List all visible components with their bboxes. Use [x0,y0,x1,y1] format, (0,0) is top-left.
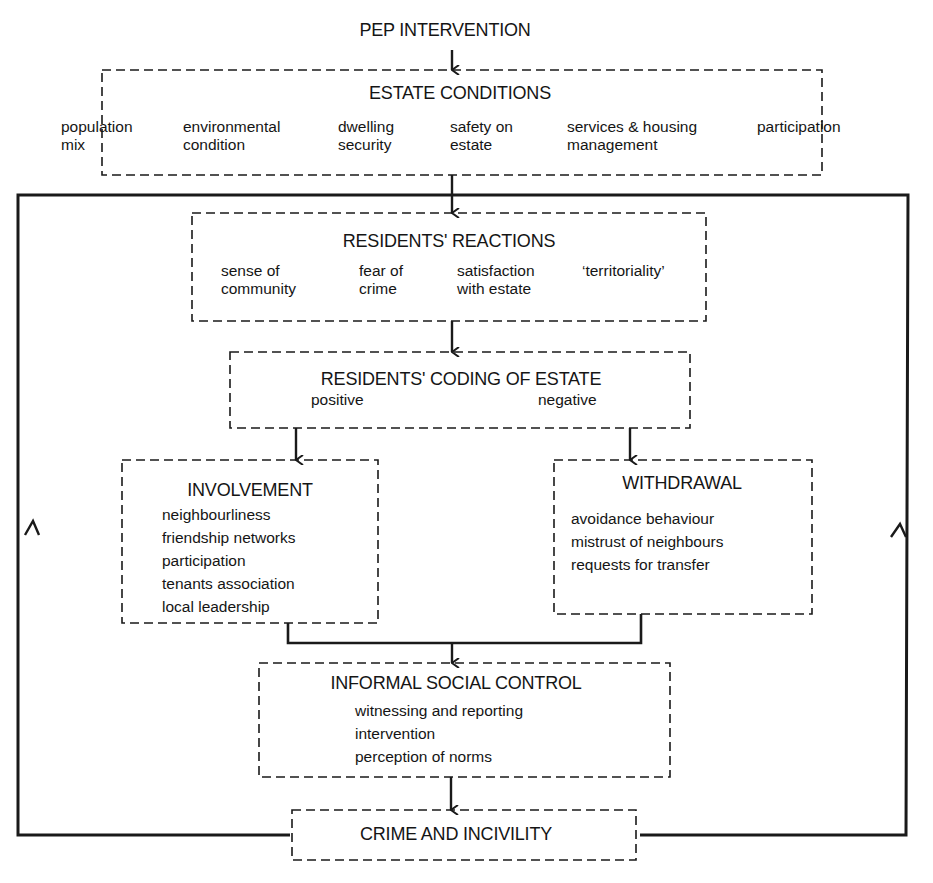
estate-item-participation: participation [757,118,841,136]
pep-intervention-label: PEP INTERVENTION [359,20,530,41]
involvement-item: local leadership [162,598,270,616]
left-loop-arrowhead-icon [25,521,39,535]
reaction-item-satisfaction: satisfaction with estate [457,262,535,299]
estate-item-safety-on-estate: safety on estate [450,118,513,155]
control-item: witnessing and reporting [355,702,523,720]
withdrawal-title: WITHDRAWAL [622,473,742,494]
estate-conditions-title: ESTATE CONDITIONS [369,83,551,104]
coding-positive-label: positive [311,391,364,409]
informal-social-control-title: INFORMAL SOCIAL CONTROL [330,673,581,694]
withdrawal-item: avoidance behaviour [571,510,714,528]
estate-item-services-housing-management: services & housing management [567,118,697,155]
control-item: intervention [355,725,435,743]
merge-connector [288,614,641,643]
estate-item-environmental-condition: environmental condition [183,118,280,155]
involvement-item: tenants association [162,575,295,593]
involvement-title: INVOLVEMENT [187,480,313,501]
control-item: perception of norms [355,748,492,766]
involvement-item: neighbourliness [162,506,271,524]
reaction-item-territoriality: ‘territoriality’ [582,262,665,280]
estate-item-population-mix: population mix [61,118,133,155]
reaction-item-fear-of-crime: fear of crime [359,262,403,299]
reaction-item-sense-of-community: sense of community [221,262,296,299]
involvement-item: participation [162,552,246,570]
withdrawal-item: requests for transfer [571,556,710,574]
crime-incivility-title: CRIME AND INCIVILITY [360,824,552,845]
estate-item-dwelling-security: dwelling security [338,118,394,155]
coding-negative-label: negative [538,391,597,409]
right-loop-arrowhead-icon [891,524,906,537]
residents-coding-title: RESIDENTS' CODING OF ESTATE [321,369,601,390]
withdrawal-item: mistrust of neighbours [571,533,724,551]
involvement-item: friendship networks [162,529,296,547]
residents-reactions-title: RESIDENTS' REACTIONS [343,231,555,252]
